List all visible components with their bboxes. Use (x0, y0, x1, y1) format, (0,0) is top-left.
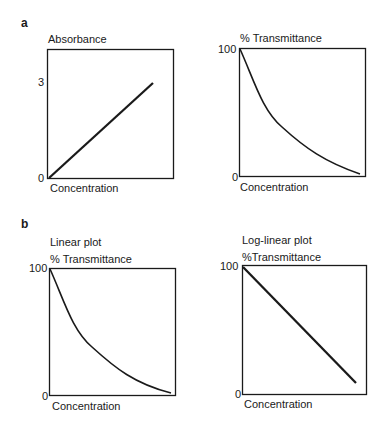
chart1-frame (48, 50, 174, 179)
chart1-data-line (49, 83, 153, 178)
chart3-data-curve (50, 269, 171, 393)
chart4-data-line (243, 267, 356, 383)
plots-canvas (0, 0, 388, 423)
chart2-data-curve (240, 49, 360, 174)
chart2-frame (240, 49, 366, 177)
chart3-frame (50, 269, 176, 396)
